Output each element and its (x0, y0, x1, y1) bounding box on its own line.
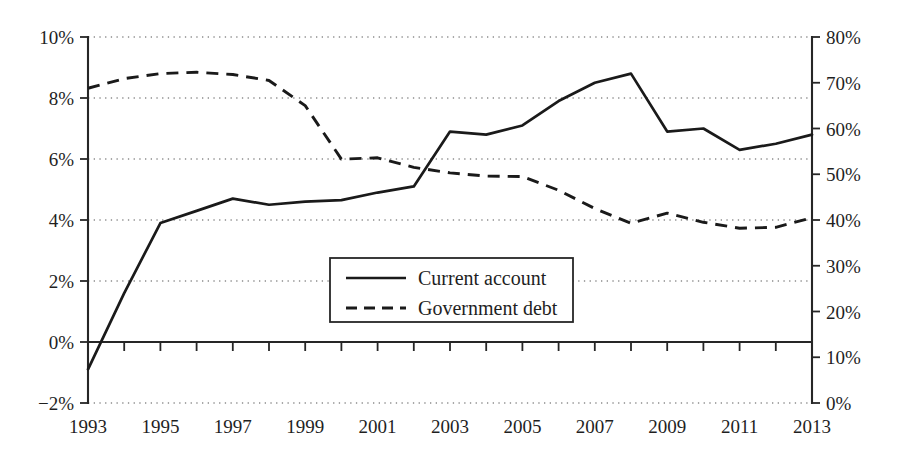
x-axis-tick-label: 2009 (648, 416, 686, 437)
right-axis-tick-label: 60% (826, 119, 861, 140)
right-axis-tick-label: 20% (826, 302, 861, 323)
chart-figure: −2%0%2%4%6%8%10%0%10%20%30%40%50%60%70%8… (0, 0, 900, 455)
x-axis-tick-label: 1997 (214, 416, 252, 437)
x-axis-tick-label: 2011 (721, 416, 758, 437)
series-line-government-debt (88, 72, 812, 228)
chart-legend: Current accountGovernment debt (330, 258, 573, 322)
left-axis-tick-label: 10% (39, 27, 74, 48)
left-axis-tick-label: 8% (49, 88, 75, 109)
axis-tick-labels: −2%0%2%4%6%8%10%0%10%20%30%40%50%60%70%8… (38, 27, 861, 437)
x-axis-tick-label: 1999 (286, 416, 324, 437)
right-axis-tick-label: 30% (826, 256, 861, 277)
legend-label: Current account (418, 267, 547, 289)
x-axis-tick-label: 2001 (359, 416, 397, 437)
right-axis-tick-label: 70% (826, 73, 861, 94)
chart-canvas: −2%0%2%4%6%8%10%0%10%20%30%40%50%60%70%8… (0, 0, 900, 455)
x-axis-tick-label: 2003 (431, 416, 469, 437)
left-axis-tick-label: 4% (49, 210, 75, 231)
data-series (88, 72, 812, 369)
x-axis-tick-label: 1995 (141, 416, 179, 437)
right-axis-tick-label: 40% (826, 210, 861, 231)
x-axis-tick-label: 1993 (69, 416, 107, 437)
right-axis-tick-label: 0% (826, 393, 852, 414)
legend-label: Government debt (418, 297, 558, 319)
right-axis-tick-label: 50% (826, 164, 861, 185)
x-axis-tick-label: 2013 (793, 416, 831, 437)
left-axis-tick-label: 6% (49, 149, 75, 170)
left-axis-tick-label: −2% (38, 393, 74, 414)
right-axis-tick-label: 80% (826, 27, 861, 48)
left-axis-tick-label: 0% (49, 332, 75, 353)
x-axis-tick-label: 2005 (503, 416, 541, 437)
right-axis-tick-label: 10% (826, 347, 861, 368)
left-axis-tick-label: 2% (49, 271, 75, 292)
x-axis-tick-label: 2007 (576, 416, 614, 437)
